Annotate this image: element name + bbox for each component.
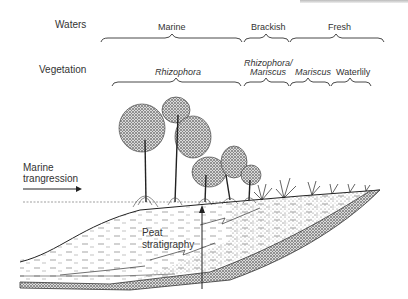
vegetation-braces	[112, 78, 371, 86]
transgression-arrow	[23, 186, 82, 192]
cross-section-drawing	[0, 0, 408, 299]
mangrove-trees	[119, 97, 261, 207]
waters-braces	[101, 34, 384, 42]
